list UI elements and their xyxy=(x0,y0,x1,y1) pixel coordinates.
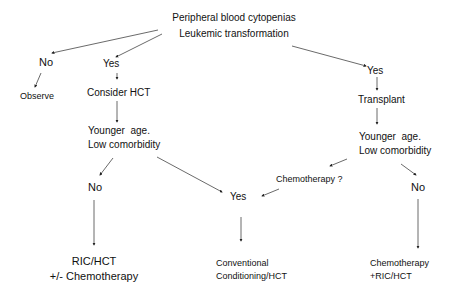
arrow-right-eval-to-no xyxy=(401,164,416,175)
arrow-chemo-q-to-center-yes xyxy=(262,189,279,196)
ric-hct-line2: +/- Chemotherapy xyxy=(44,269,144,284)
chemo-ric-line2: +RIC/HCT xyxy=(370,270,429,282)
chemo-question-node: Chemotherapy ? xyxy=(276,173,343,185)
right-yes-node: Yes xyxy=(367,64,383,78)
arrow-right-eval-to-chemo-q xyxy=(330,159,347,166)
transplant-node: Transplant xyxy=(358,93,405,107)
ric-hct-line1: RIC/HCT xyxy=(44,254,144,269)
center-yes-node: Yes xyxy=(230,190,246,204)
arrow-no-to-observe xyxy=(35,73,41,87)
root-line1: Peripheral blood cytopenias xyxy=(164,11,304,25)
right-eval-node: Younger age. Low comorbidity xyxy=(359,130,431,157)
right-eval-line2: Low comorbidity xyxy=(359,144,431,158)
observe-node: Observe xyxy=(20,90,54,102)
arrow-left-eval-to-center-yes xyxy=(157,157,222,192)
conventional-node: Conventional Conditioning/HCT xyxy=(216,257,287,282)
left-eval-no-node: No xyxy=(88,180,102,195)
left-eval-line1: Younger age. xyxy=(88,124,160,138)
conventional-line1: Conventional xyxy=(216,257,287,269)
chemo-ric-node: Chemotherapy +RIC/HCT xyxy=(370,257,429,282)
root-node: Peripheral blood cytopenias Leukemic tra… xyxy=(164,11,304,40)
mid-yes-node: Yes xyxy=(103,57,119,71)
conventional-line2: Conditioning/HCT xyxy=(216,270,287,282)
ric-hct-node: RIC/HCT +/- Chemotherapy xyxy=(44,254,144,284)
root-line2: Leukemic transformation xyxy=(164,27,304,41)
left-eval-line2: Low comorbidity xyxy=(88,138,160,152)
arrow-root-to-right-yes xyxy=(292,46,366,66)
right-eval-line1: Younger age. xyxy=(359,130,431,144)
arrow-left-eval-to-no xyxy=(100,158,113,175)
left-no-node: No xyxy=(39,55,53,70)
right-no-node: No xyxy=(411,180,425,195)
arrow-root-to-no xyxy=(52,30,158,53)
consider-hct-node: Consider HCT xyxy=(87,86,150,100)
left-eval-node: Younger age. Low comorbidity xyxy=(88,124,160,151)
chemo-ric-line1: Chemotherapy xyxy=(370,257,429,269)
